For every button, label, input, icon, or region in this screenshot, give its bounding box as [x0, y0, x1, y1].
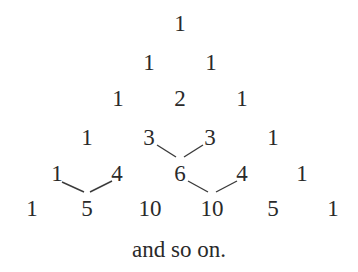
caption: and so on. — [0, 238, 358, 261]
triangle-cell: 1 — [81, 126, 93, 149]
triangle-cell: 4 — [111, 162, 123, 185]
triangle-cell: 1 — [236, 87, 248, 110]
triangle-cell: 4 — [236, 162, 248, 185]
triangle-cell: 1 — [174, 12, 186, 35]
triangle-cell: 1 — [26, 197, 38, 220]
connector-line — [62, 182, 84, 192]
triangle-cell: 2 — [174, 87, 186, 110]
triangle-cell: 5 — [267, 197, 279, 220]
triangle-cell: 6 — [174, 162, 186, 185]
triangle-cell: 1 — [112, 87, 124, 110]
connector-line — [216, 181, 237, 192]
triangle-cell: 5 — [81, 197, 93, 220]
triangle-cell: 1 — [205, 51, 217, 74]
triangle-cell: 3 — [143, 126, 155, 149]
connector-lines — [0, 0, 358, 272]
triangle-cell: 1 — [143, 51, 155, 74]
triangle-cell: 1 — [327, 197, 339, 220]
connector-line — [188, 181, 208, 192]
triangle-cell: 1 — [51, 162, 63, 185]
connector-line — [184, 145, 203, 157]
triangle-cell: 10 — [139, 197, 162, 220]
connector-line — [90, 181, 112, 192]
triangle-cell: 1 — [267, 126, 279, 149]
triangle-cell: 1 — [296, 162, 308, 185]
triangle-cell: 3 — [204, 126, 216, 149]
triangle-cell: 10 — [201, 197, 224, 220]
connector-line — [157, 145, 176, 157]
pascal-triangle-diagram: 11112113311464115101051 and so on. — [0, 0, 358, 272]
